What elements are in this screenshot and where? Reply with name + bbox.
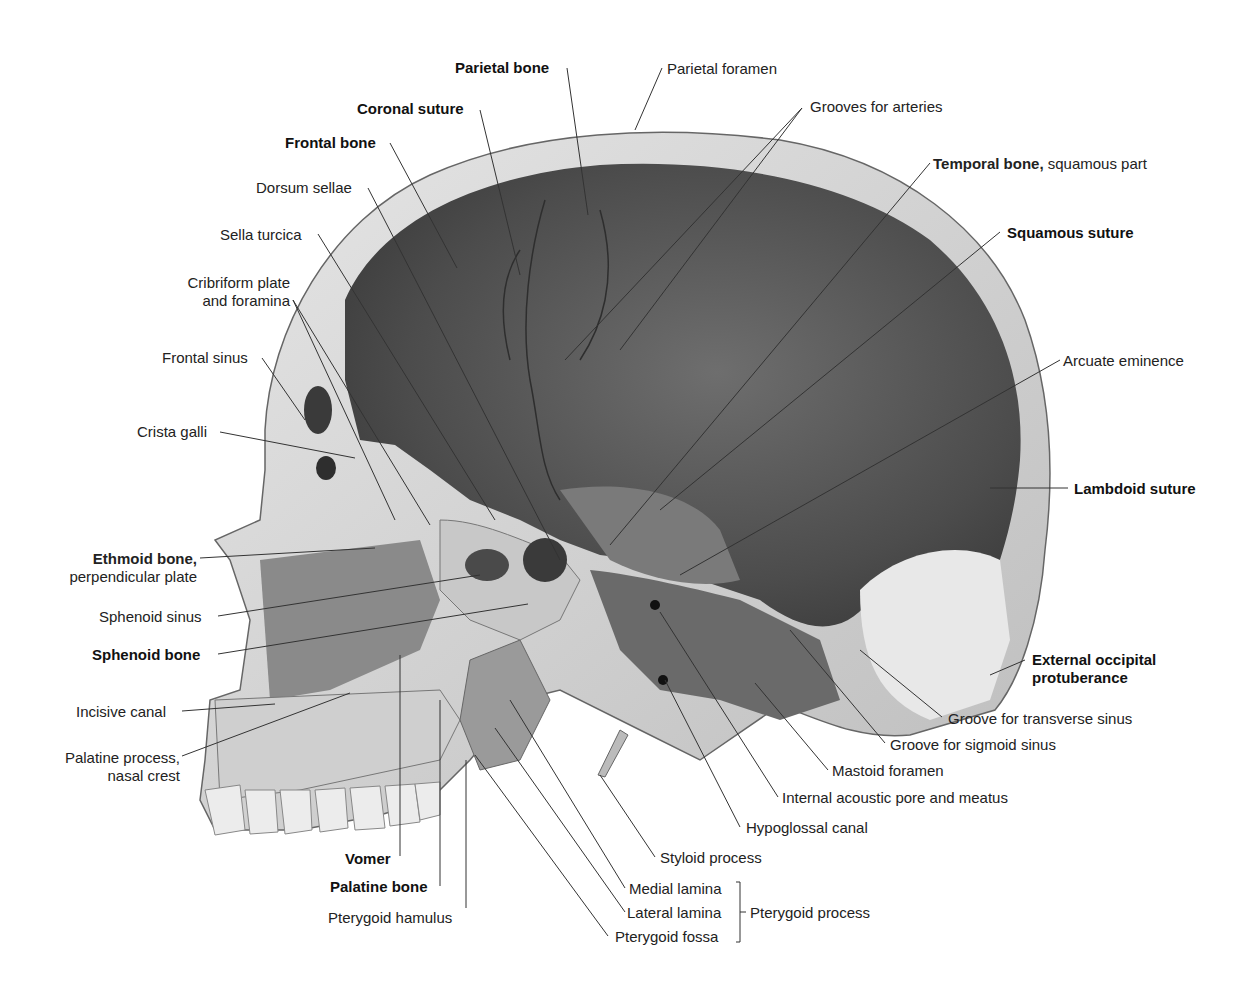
label-temporal-bone: Temporal bone, squamous part [933, 155, 1147, 173]
label-coronal-suture: Coronal suture [357, 100, 464, 118]
label-palatine-process-line2: nasal crest [107, 767, 180, 784]
label-squamous-suture: Squamous suture [1007, 224, 1134, 242]
label-lambdoid-suture: Lambdoid suture [1074, 480, 1196, 498]
label-arcuate-eminence: Arcuate eminence [1063, 352, 1184, 370]
label-temporal-bone-part: squamous part [1044, 155, 1147, 172]
skull-drawing [0, 0, 1242, 993]
label-ext-occ-line2: protuberance [1032, 669, 1128, 686]
label-frontal-bone: Frontal bone [285, 134, 376, 152]
label-parietal-foramen: Parietal foramen [667, 60, 777, 78]
label-palatine-process: Palatine process,nasal crest [30, 749, 180, 785]
label-cribriform-line1: Cribriform plate [187, 274, 290, 291]
label-pterygoid-process: Pterygoid process [750, 904, 870, 922]
label-grooves-for-arteries: Grooves for arteries [810, 98, 943, 116]
label-groove-transverse-sinus: Groove for transverse sinus [948, 710, 1132, 728]
label-sella-turcica: Sella turcica [220, 226, 302, 244]
label-styloid-process: Styloid process [660, 849, 762, 867]
label-medial-lamina: Medial lamina [629, 880, 722, 898]
label-lateral-lamina: Lateral lamina [627, 904, 721, 922]
label-internal-acoustic-pore: Internal acoustic pore and meatus [782, 789, 1008, 807]
label-external-occipital-protuberance: External occipitalprotuberance [1032, 651, 1156, 687]
label-parietal-bone: Parietal bone [455, 59, 549, 77]
label-ethmoid-bone: Ethmoid bone,perpendicular plate [40, 550, 197, 586]
label-vomer: Vomer [345, 850, 391, 868]
label-palatine-process-line1: Palatine process, [65, 749, 180, 766]
label-ethmoid-name: Ethmoid bone, [93, 550, 197, 567]
label-temporal-bone-name: Temporal bone, [933, 155, 1044, 172]
label-sphenoid-bone: Sphenoid bone [92, 646, 200, 664]
label-incisive-canal: Incisive canal [76, 703, 166, 721]
label-cribriform-line2: and foramina [202, 292, 290, 309]
label-pterygoid-hamulus: Pterygoid hamulus [328, 909, 452, 927]
label-cribriform-plate: Cribriform plateand foramina [160, 274, 290, 310]
label-ext-occ-line1: External occipital [1032, 651, 1156, 668]
label-groove-sigmoid-sinus: Groove for sigmoid sinus [890, 736, 1056, 754]
label-crista-galli: Crista galli [137, 423, 207, 441]
label-hypoglossal-canal: Hypoglossal canal [746, 819, 868, 837]
label-ethmoid-part: perpendicular plate [69, 568, 197, 585]
label-dorsum-sellae: Dorsum sellae [256, 179, 352, 197]
label-pterygoid-fossa: Pterygoid fossa [615, 928, 718, 946]
label-mastoid-foramen: Mastoid foramen [832, 762, 944, 780]
label-frontal-sinus: Frontal sinus [162, 349, 248, 367]
label-sphenoid-sinus: Sphenoid sinus [99, 608, 202, 626]
skull-illustration: Parietal bone Parietal foramen Coronal s… [0, 0, 1242, 993]
label-palatine-bone: Palatine bone [330, 878, 428, 896]
